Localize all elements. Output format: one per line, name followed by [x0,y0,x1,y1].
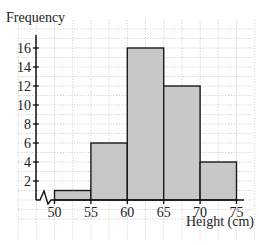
histogram-bar [55,191,91,201]
x-tick-label: 55 [84,205,98,220]
y-tick-label: 14 [17,60,31,75]
histogram-bar [200,162,236,200]
y-tick-label: 2 [24,174,31,189]
histogram-bar [164,86,200,200]
y-tick-label: 16 [17,41,31,56]
y-tick-label: 6 [24,136,31,151]
x-axis-title: Height (cm) [186,214,254,230]
histogram-bar [91,143,127,200]
x-tick-label: 50 [48,205,62,220]
x-tick-label: 65 [157,205,171,220]
y-tick-label: 8 [24,117,31,132]
histogram-chart: 246810121416 505560657075 Frequency Heig… [0,0,259,245]
y-tick-label: 10 [17,98,31,113]
x-axis-break [36,191,55,204]
y-axis-title: Frequency [6,10,65,25]
y-tick-label: 12 [17,79,31,94]
histogram-bar [127,48,163,200]
x-tick-label: 60 [120,205,134,220]
y-tick-label: 4 [24,155,31,170]
